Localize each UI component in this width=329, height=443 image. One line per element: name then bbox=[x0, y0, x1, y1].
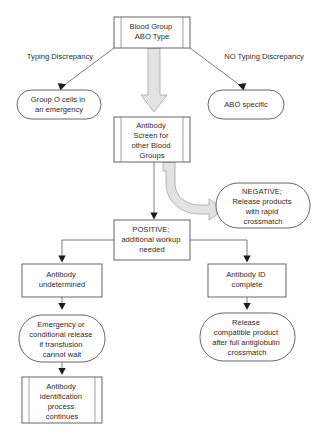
node-release-compatible-product[interactable]: Release compatible product after full an… bbox=[200, 313, 295, 361]
edge-label-typing-discrepancy: Typing Discrepancy bbox=[27, 52, 93, 61]
node-emergency-conditional-release[interactable]: Emergency or conditional release if tran… bbox=[19, 315, 105, 362]
edge-antibody-screen-to-negative-block-arrow bbox=[163, 162, 224, 220]
node-negative-release[interactable]: NEGATIVE; Release products with rapid cr… bbox=[216, 183, 310, 228]
node-blood-group-abo-type[interactable]: Blood Group ABO Type bbox=[114, 17, 190, 48]
node-label: Group O cells in an emergency bbox=[31, 95, 88, 114]
node-antibody-identification-process[interactable]: Antibody identification process continue… bbox=[22, 377, 102, 423]
edge-positive-to-antibody-id-complete bbox=[190, 240, 251, 263]
edge-antibody-id-complete-to-release-compatible bbox=[243, 297, 250, 310]
edge-antibody-screen-to-positive bbox=[150, 162, 157, 220]
edge-antibody-undetermined-to-emergency-release bbox=[58, 297, 65, 310]
edge-emergency-release-to-antibody-identification bbox=[58, 362, 65, 375]
node-antibody-screen[interactable]: Antibody Screen for other Blood Groups bbox=[114, 117, 190, 162]
flowchart-container: Blood Group ABO Type Group O cells in an… bbox=[0, 0, 329, 443]
edge-label-no-typing-discrepancy: NO Typing Discrepancy bbox=[224, 52, 304, 61]
node-positive-workup[interactable]: POSITIVE; additional workup needed bbox=[114, 220, 190, 260]
node-antibody-id-complete[interactable]: Antibody ID complete bbox=[208, 264, 286, 297]
edge-positive-to-antibody-undetermined bbox=[58, 240, 114, 263]
edge-blood-group-to-antibody-screen-block-arrow bbox=[141, 48, 167, 112]
node-antibody-undetermined[interactable]: Antibody undetermined bbox=[22, 264, 102, 297]
node-abo-specific[interactable]: ABO specific bbox=[208, 90, 284, 119]
flowchart-diagram: Blood Group ABO Type Group O cells in an… bbox=[0, 0, 329, 443]
node-label: ABO specific bbox=[224, 100, 268, 109]
node-group-o-cells[interactable]: Group O cells in an emergency bbox=[17, 90, 101, 119]
node-label: Blood Group ABO Type bbox=[130, 22, 175, 41]
node-label: Antibody ID complete bbox=[226, 270, 267, 289]
